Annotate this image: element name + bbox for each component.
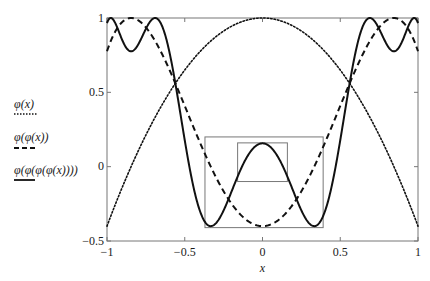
y-tick-label: 0: [98, 159, 104, 173]
y-tick-label: 0.5: [89, 85, 104, 99]
series-phi2-dashed: [107, 18, 418, 226]
x-axis-label: x: [259, 261, 266, 275]
series-phi-dotted: [107, 18, 418, 226]
x-tick-label: 1: [415, 245, 421, 259]
legend-label-phi2: φ(φ(x)): [14, 130, 49, 144]
legend-label-phi: φ(x): [14, 97, 34, 111]
plot-frame: [107, 18, 418, 241]
x-tick-label: −0.5: [174, 245, 196, 259]
x-tick-label: 0.5: [333, 245, 348, 259]
legend-label-phi4: φ(φ(φ(φ(x)))): [14, 163, 78, 177]
x-ticks: [107, 18, 418, 241]
y-tick-label: −0.5: [82, 234, 104, 248]
y-tick-label: 1: [98, 11, 104, 25]
series-phi4-solid: [107, 18, 418, 226]
x-tick-label: 0: [260, 245, 266, 259]
chart-canvas: −1 −0.5 0 0.5 1 −0.5 0 0.5 1 x φ(x) φ(φ(…: [0, 0, 430, 281]
legend: φ(x) φ(φ(x)) φ(φ(φ(φ(x)))): [14, 97, 78, 180]
y-ticks: [107, 18, 418, 241]
